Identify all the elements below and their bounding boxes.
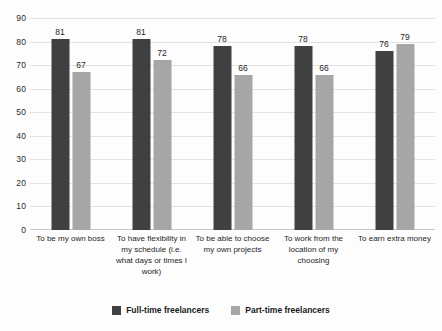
bar[interactable]: 78: [294, 46, 312, 230]
bar-chart: 9080706050403020100 81678172786678667679…: [0, 0, 442, 331]
bar-pair: 8172: [132, 18, 171, 230]
bar-value-label: 79: [400, 32, 409, 42]
bar-value-label: 66: [238, 63, 247, 73]
bar-value-label: 66: [319, 63, 328, 73]
bar-value-label: 67: [76, 60, 85, 70]
bar-value-label: 78: [298, 34, 307, 44]
bar[interactable]: 66: [315, 75, 333, 230]
x-axis-category-label: To work from the location of my choosing: [273, 233, 354, 277]
y-axis-tick-label: 60: [0, 84, 26, 94]
legend-item[interactable]: Full-time freelancers: [112, 305, 209, 315]
y-axis-tick-label: 90: [0, 13, 26, 23]
bar[interactable]: 72: [153, 60, 171, 230]
bar-pair: 8167: [51, 18, 90, 230]
legend-label: Full-time freelancers: [126, 305, 209, 315]
bar-pair: 7679: [375, 18, 414, 230]
legend-swatch-icon: [112, 306, 121, 315]
bar[interactable]: 81: [132, 39, 150, 230]
y-axis: 9080706050403020100: [0, 18, 26, 230]
bar-value-label: 81: [55, 27, 64, 37]
bar-group: 7866: [273, 18, 354, 230]
bar[interactable]: 66: [234, 75, 252, 230]
bar[interactable]: 76: [375, 51, 393, 230]
y-axis-tick-label: 20: [0, 178, 26, 188]
y-axis-tick-label: 10: [0, 201, 26, 211]
bar-value-label: 76: [379, 39, 388, 49]
y-axis-tick-label: 50: [0, 107, 26, 117]
bar-group: 8172: [111, 18, 192, 230]
bar-pair: 7866: [294, 18, 333, 230]
y-axis-tick-label: 30: [0, 154, 26, 164]
bar-value-label: 78: [217, 34, 226, 44]
bar-value-label: 81: [136, 27, 145, 37]
x-axis-category-label: To be able to choose my own projects: [192, 233, 273, 277]
bar[interactable]: 67: [72, 72, 90, 230]
bar-group: 8167: [30, 18, 111, 230]
x-axis-category-label: To have flexibility in my schedule (i.e.…: [111, 233, 192, 277]
bar-group: 7679: [354, 18, 435, 230]
bar[interactable]: 79: [396, 44, 414, 230]
legend-label: Part-time freelancers: [245, 305, 330, 315]
chart-legend: Full-time freelancersPart-time freelance…: [0, 305, 442, 315]
y-axis-tick-label: 70: [0, 60, 26, 70]
legend-swatch-icon: [231, 306, 240, 315]
bar[interactable]: 81: [51, 39, 69, 230]
plot-area: 81678172786678667679: [30, 18, 435, 230]
legend-item[interactable]: Part-time freelancers: [231, 305, 330, 315]
bar-pair: 7866: [213, 18, 252, 230]
bar-value-label: 72: [157, 48, 166, 58]
x-axis-categories: To be my own bossTo have flexibility in …: [30, 233, 435, 277]
y-axis-tick-label: 40: [0, 131, 26, 141]
x-axis-category-label: To be my own boss: [30, 233, 111, 277]
y-axis-tick-label: 0: [0, 225, 26, 235]
bar-groups: 81678172786678667679: [30, 18, 435, 230]
bar-group: 7866: [192, 18, 273, 230]
bar[interactable]: 78: [213, 46, 231, 230]
x-axis-category-label: To earn extra money: [354, 233, 435, 277]
y-axis-tick-label: 80: [0, 37, 26, 47]
